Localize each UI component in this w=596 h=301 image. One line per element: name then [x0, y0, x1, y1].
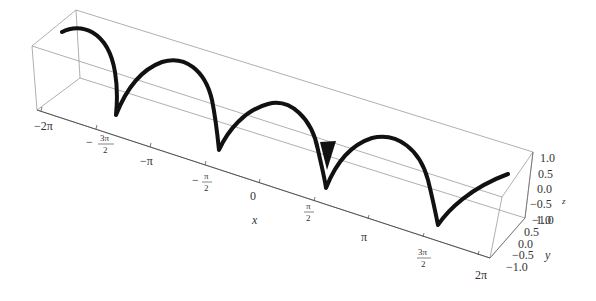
svg-text:π: π	[306, 201, 311, 211]
x-tick-label: π	[361, 230, 367, 244]
x-tick-label: −2π	[34, 119, 53, 133]
y-tick-labels: 1.0 0.5 0.0 −0.5 −1.0	[506, 213, 551, 274]
plot-3d: −2π − 3π 2 −π − π 2 0 π 2 π 3π 2 2π x 1.	[0, 0, 596, 301]
x-tick-label-frac: − π 2	[192, 171, 212, 193]
x-tick-label-frac: − 3π 2	[86, 133, 114, 155]
svg-text:2: 2	[103, 145, 108, 155]
svg-text:3π: 3π	[418, 247, 428, 257]
svg-text:2: 2	[306, 213, 311, 223]
x-tick-label-frac: π 2	[304, 201, 314, 223]
parametric-curve	[62, 28, 508, 225]
svg-text:3π: 3π	[100, 133, 110, 143]
x-axis-label: x	[251, 213, 258, 227]
svg-text:0.0: 0.0	[537, 182, 552, 196]
svg-text:−0.5: −0.5	[530, 197, 552, 211]
svg-text:−: −	[192, 173, 199, 187]
svg-text:−: −	[86, 135, 93, 149]
svg-text:2: 2	[204, 183, 209, 193]
x-tick-label: 2π	[475, 268, 487, 282]
svg-text:0.5: 0.5	[538, 167, 553, 181]
x-tick-labels: −2π − 3π 2 −π − π 2 0 π 2 π 3π 2 2π	[34, 119, 487, 282]
y-axis-label: y	[544, 248, 551, 262]
svg-text:2: 2	[421, 259, 426, 269]
svg-text:−1.0: −1.0	[506, 260, 528, 274]
x-tick-label: −π	[140, 154, 153, 168]
svg-text:1.0: 1.0	[540, 151, 555, 165]
z-axis-label: z	[561, 196, 566, 206]
x-tick-label-frac: 3π 2	[417, 247, 431, 269]
svg-text:π: π	[204, 171, 209, 181]
x-tick-label: 0	[250, 189, 256, 203]
